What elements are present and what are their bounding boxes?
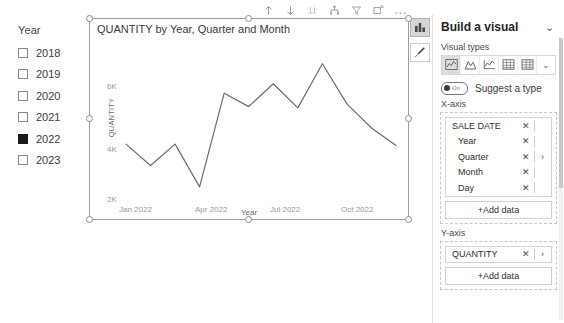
- divider: [534, 167, 535, 178]
- x-axis-field-day[interactable]: Day ✕: [446, 180, 551, 196]
- field-label: Month: [452, 167, 520, 177]
- line-chart-visual[interactable]: QUANTITY by Year, Quarter and Month 6K 4…: [89, 18, 409, 220]
- focus-mode-icon[interactable]: [372, 4, 385, 17]
- y-axis-field-box: QUANTITY ✕ ›: [445, 246, 552, 264]
- resize-handle-middle-left[interactable]: [86, 115, 93, 122]
- format-visual-button[interactable]: [410, 43, 430, 62]
- line-stacked-chart-type-button[interactable]: [480, 56, 499, 74]
- remove-field-icon[interactable]: ✕: [520, 183, 531, 193]
- suggest-a-type-row: On Suggest a type: [441, 82, 556, 95]
- chart-plot-area: [90, 19, 408, 219]
- line-chart-icon: [445, 58, 458, 73]
- checkbox-2021[interactable]: [18, 112, 28, 122]
- expand-field-icon[interactable]: ›: [538, 152, 547, 162]
- suggest-a-type-label: Suggest a type: [475, 83, 542, 94]
- panel-scrollbar[interactable]: [559, 38, 563, 320]
- slicer-item-2023[interactable]: 2023: [18, 151, 82, 170]
- divider: [534, 182, 535, 193]
- resize-handle-bottom-center[interactable]: [245, 216, 252, 223]
- x-axis-field-year[interactable]: Year ✕: [446, 134, 551, 150]
- checkbox-2018[interactable]: [18, 48, 28, 58]
- x-axis-label: X-axis: [433, 99, 564, 109]
- build-a-visual-panel: Build a visual ⌄ Visual types: [432, 14, 564, 323]
- remove-field-icon[interactable]: ✕: [520, 136, 531, 146]
- field-label: Day: [452, 183, 520, 193]
- remove-field-icon[interactable]: ✕: [520, 249, 531, 259]
- drill-mode-icon[interactable]: [328, 4, 341, 17]
- slicer-item-2020[interactable]: 2020: [18, 86, 82, 105]
- remove-field-icon[interactable]: ✕: [520, 167, 531, 177]
- year-slicer: Year 2018 2019 2020 2021 2022 2023: [18, 24, 82, 172]
- bar-chart-icon: [414, 21, 426, 35]
- paintbrush-icon: [414, 46, 426, 60]
- visual-types-label: Visual types: [433, 42, 564, 52]
- slicer-label: 2020: [36, 90, 60, 102]
- x-axis-field-box: SALE DATE ✕ Year ✕ Quarter ✕ › Month ✕: [445, 117, 552, 197]
- field-label: QUANTITY: [452, 249, 520, 259]
- line-chart-type-button[interactable]: [442, 56, 461, 74]
- remove-field-icon[interactable]: ✕: [520, 121, 531, 131]
- slicer-label: 2019: [36, 68, 60, 80]
- checkbox-2020[interactable]: [18, 91, 28, 101]
- slicer-item-2019[interactable]: 2019: [18, 65, 82, 84]
- field-label: Quarter: [452, 152, 520, 162]
- toggle-knob: [444, 85, 450, 91]
- slicer-item-2022[interactable]: 2022: [18, 129, 82, 148]
- field-label: SALE DATE: [452, 121, 520, 131]
- y-tick-2k: 2K: [107, 195, 117, 204]
- y-axis-label: Y-axis: [433, 228, 564, 238]
- chevron-down-icon[interactable]: ⌄: [545, 22, 554, 33]
- filter-icon[interactable]: [350, 4, 363, 17]
- toggle-state-label: On: [452, 83, 460, 93]
- x-axis-field-quarter[interactable]: Quarter ✕ ›: [446, 149, 551, 165]
- area-chart-icon: [464, 58, 477, 73]
- remove-field-icon[interactable]: ✕: [520, 152, 531, 162]
- checkbox-2019[interactable]: [18, 69, 28, 79]
- more-options-icon[interactable]: …: [394, 6, 408, 14]
- slicer-label: 2021: [36, 111, 60, 123]
- chart-svg: [90, 19, 410, 221]
- resize-handle-middle-right[interactable]: [405, 115, 412, 122]
- matrix-type-button[interactable]: [518, 56, 537, 74]
- panel-title: Build a visual: [441, 20, 518, 34]
- checkbox-2022[interactable]: [18, 134, 28, 144]
- build-visual-button[interactable]: [410, 18, 430, 37]
- resize-handle-top-right[interactable]: [405, 15, 412, 22]
- expand-field-icon[interactable]: ›: [538, 249, 547, 259]
- visualization-pane-rail: [410, 18, 430, 62]
- y-axis-well[interactable]: QUANTITY ✕ › +Add data: [440, 241, 557, 291]
- matrix-icon: [521, 58, 534, 73]
- y-axis-field-quantity[interactable]: QUANTITY ✕ ›: [446, 247, 551, 263]
- slicer-label: 2023: [36, 154, 60, 166]
- area-chart-type-button[interactable]: [461, 56, 480, 74]
- y-axis-add-data-button[interactable]: +Add data: [445, 267, 552, 285]
- visual-header-toolbar: …: [262, 2, 408, 18]
- divider: [534, 151, 535, 162]
- line-stacked-chart-icon: [483, 58, 496, 73]
- quantity-series-line: [126, 64, 396, 187]
- panel-scrollbar-thumb[interactable]: [559, 38, 563, 188]
- resize-handle-bottom-right[interactable]: [405, 216, 412, 223]
- divider: [534, 120, 535, 131]
- x-axis-field-sale-date[interactable]: SALE DATE ✕: [446, 118, 551, 134]
- x-axis-well[interactable]: SALE DATE ✕ Year ✕ Quarter ✕ › Month ✕: [440, 112, 557, 224]
- resize-handle-bottom-left[interactable]: [86, 216, 93, 223]
- panel-header: Build a visual ⌄: [433, 14, 564, 38]
- suggest-a-type-toggle[interactable]: On: [441, 82, 468, 95]
- visual-types-more-button[interactable]: ⌄: [537, 56, 555, 74]
- resize-handle-top-center[interactable]: [245, 15, 252, 22]
- slicer-label: 2018: [36, 47, 60, 59]
- expand-all-icon[interactable]: [306, 4, 319, 17]
- slicer-label: 2022: [36, 133, 60, 145]
- table-icon: [502, 58, 515, 73]
- slicer-item-2021[interactable]: 2021: [18, 108, 82, 127]
- slicer-item-2018[interactable]: 2018: [18, 43, 82, 62]
- drill-up-icon[interactable]: [262, 4, 275, 17]
- table-type-button[interactable]: [499, 56, 518, 74]
- checkbox-2023[interactable]: [18, 155, 28, 165]
- slicer-title: Year: [18, 24, 82, 36]
- resize-handle-top-left[interactable]: [86, 15, 93, 22]
- x-axis-field-month[interactable]: Month ✕: [446, 165, 551, 181]
- x-axis-add-data-button[interactable]: +Add data: [445, 201, 552, 219]
- drill-down-icon[interactable]: [284, 4, 297, 17]
